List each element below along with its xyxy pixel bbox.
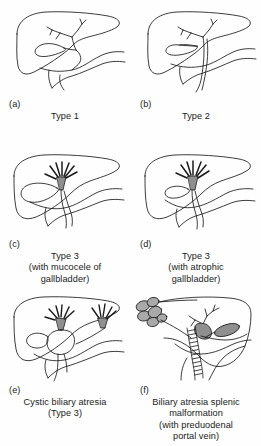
duodenum-upper bbox=[171, 49, 255, 68]
panel-e: (e) Cystic biliary atresia (Type 3) bbox=[0, 292, 130, 420]
panel-b-caption-line-1: Type 2 bbox=[137, 111, 255, 122]
panel-e-caption-line-2: (Type 3) bbox=[6, 408, 124, 419]
panel-d-illustration bbox=[131, 150, 261, 238]
liver-outline bbox=[148, 12, 251, 74]
panel-e-caption: Cystic biliary atresia (Type 3) bbox=[0, 397, 130, 420]
duodenum-loop-left bbox=[181, 358, 187, 380]
panel-c-label: (c) bbox=[9, 238, 20, 251]
panel-f-caption-line-1: Biliary atresia splenic bbox=[137, 397, 255, 408]
common-bile-duct-2 bbox=[64, 354, 67, 372]
panel-c-caption: Type 3 (with mucocele of gallbladder) bbox=[0, 251, 130, 285]
fibrous-cone-porta-hepatis bbox=[188, 176, 198, 190]
panel-f-labelrow: (f) bbox=[131, 384, 261, 397]
duodenum-upper bbox=[30, 189, 122, 209]
panel-f-illustration bbox=[131, 292, 261, 384]
panel-d-caption-line-3: gallbladder) bbox=[137, 274, 255, 285]
hepatic-duct-left bbox=[47, 27, 72, 39]
common-bile-duct-2 bbox=[195, 191, 203, 227]
panel-f-label: (f) bbox=[140, 384, 149, 397]
panel-b-illustration bbox=[131, 6, 261, 98]
duodenum-upper bbox=[175, 340, 251, 354]
panel-f: (f) Biliary atresia splenic malformation… bbox=[131, 292, 261, 443]
gallbladder bbox=[213, 321, 241, 339]
duodenum-lower bbox=[209, 346, 245, 380]
gallbladder bbox=[27, 333, 48, 348]
panel-c-caption-line-3: gallbladder) bbox=[6, 274, 124, 285]
panel-c-illustration bbox=[0, 150, 130, 238]
panel-f-caption: Biliary atresia splenic malformation (wi… bbox=[131, 397, 261, 443]
panel-a-caption: Type 1 bbox=[0, 111, 130, 122]
panel-d-caption-line-2: (with atrophic bbox=[137, 262, 255, 273]
duodenum-lower bbox=[52, 61, 125, 88]
fibrous-cone-porta-hepatis bbox=[56, 318, 66, 330]
liver-outline bbox=[14, 155, 119, 219]
fibrous-spicules bbox=[45, 162, 77, 179]
panel-e-illustration bbox=[0, 292, 130, 384]
biliary-atresia-classification-figure: (a) Type 1 bbox=[0, 0, 261, 446]
duodenum-lower bbox=[48, 351, 124, 378]
panel-f-caption-line-2: malformation bbox=[137, 408, 255, 419]
fibrous-spicules-left bbox=[45, 305, 74, 320]
duodenum-lower bbox=[183, 58, 256, 84]
panel-d-caption: Type 3 (with atrophic gallbladder) bbox=[131, 251, 261, 285]
hepatic-duct-right bbox=[203, 19, 217, 37]
duodenum-lower bbox=[179, 200, 255, 227]
cone-to-cyst-duct bbox=[76, 328, 105, 344]
duodenum-upper bbox=[165, 189, 253, 208]
panel-e-label: (e) bbox=[9, 384, 21, 397]
duodenum-loop-inner bbox=[60, 75, 64, 90]
gallbladder bbox=[166, 45, 198, 56]
panel-a-caption-line-1: Type 1 bbox=[6, 111, 124, 122]
fibrous-cone-porta-hepatis bbox=[57, 177, 66, 190]
gallbladder-atrophic bbox=[165, 186, 189, 198]
panel-a-illustration bbox=[0, 6, 130, 98]
panel-b: (b) Type 2 bbox=[131, 6, 261, 122]
panel-b-label: (b) bbox=[140, 98, 152, 111]
common-bile-duct bbox=[54, 354, 58, 381]
panel-d-label: (d) bbox=[140, 238, 152, 251]
panel-d-caption-line-1: Type 3 bbox=[137, 251, 255, 262]
panel-c-caption-line-1: Type 3 bbox=[6, 251, 124, 262]
liver-outline bbox=[17, 12, 120, 74]
gallbladder-mucocele bbox=[21, 183, 58, 202]
panel-b-labelrow: (b) bbox=[131, 98, 261, 111]
panel-a-labelrow: (a) bbox=[0, 98, 130, 111]
gallbladder bbox=[35, 44, 65, 57]
fibrous-spicules bbox=[176, 161, 209, 178]
panel-d-labelrow: (d) bbox=[131, 238, 261, 251]
panel-a-label: (a) bbox=[9, 98, 21, 111]
intrahepatic-duct-right bbox=[203, 305, 219, 324]
splenic-vessel-lower bbox=[161, 320, 191, 338]
second-fibrous-cone bbox=[98, 318, 108, 328]
hepatic-duct-right bbox=[72, 19, 86, 37]
panel-d: (d) Type 3 (with atrophic gallbladder) bbox=[131, 150, 261, 285]
panel-f-caption-line-4: portal vein) bbox=[137, 431, 255, 442]
duodenum-loop-left bbox=[180, 67, 183, 84]
panel-e-labelrow: (e) bbox=[0, 384, 130, 397]
liver-outline bbox=[145, 155, 250, 219]
duodenum-loop-left bbox=[45, 360, 48, 378]
panel-b-caption: Type 2 bbox=[131, 111, 261, 122]
hepatic-duct-left bbox=[178, 27, 203, 39]
duodenum-loop-left bbox=[49, 70, 52, 88]
panel-e-caption-line-1: Cystic biliary atresia bbox=[6, 397, 124, 408]
common-hepatic-duct bbox=[72, 37, 76, 50]
panel-f-caption-line-3: (with preduodenal bbox=[137, 420, 255, 431]
panel-c-labelrow: (c) bbox=[0, 238, 130, 251]
panel-a: (a) Type 1 bbox=[0, 6, 130, 122]
panel-c: (c) Type 3 (with mucocele of gallbladder… bbox=[0, 150, 130, 285]
fibrous-spicules-right bbox=[92, 304, 116, 319]
panel-c-caption-line-2: (with mucocele of bbox=[6, 262, 124, 273]
